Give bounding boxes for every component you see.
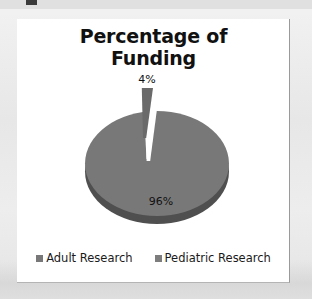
legend-label-adult-research: Adult Research	[46, 251, 132, 265]
pie-chart: 4% 96%	[71, 81, 243, 241]
legend-item-adult-research[interactable]: Adult Research	[36, 251, 132, 265]
legend-label-pediatric-research: Pediatric Research	[165, 251, 271, 265]
data-label-adult-research: 96%	[139, 195, 183, 208]
chart-title-line-1: Percentage of	[17, 25, 290, 47]
legend-swatch-icon	[155, 255, 162, 262]
chart-title-line-2: Funding	[17, 47, 290, 69]
legend-swatch-icon	[36, 255, 43, 262]
scan-top-edge	[0, 0, 312, 9]
pie-plot-area: 4% 96%	[17, 69, 290, 249]
data-label-pediatric-research: 4%	[127, 73, 167, 86]
chart-title: Percentage of Funding	[17, 25, 290, 69]
chart-frame: Percentage of Funding 4% 96% Adult Resea…	[17, 19, 290, 283]
legend-item-pediatric-research[interactable]: Pediatric Research	[155, 251, 271, 265]
chart-legend: Adult Research Pediatric Research	[17, 251, 290, 265]
scan-artifact-speck	[26, 0, 37, 5]
